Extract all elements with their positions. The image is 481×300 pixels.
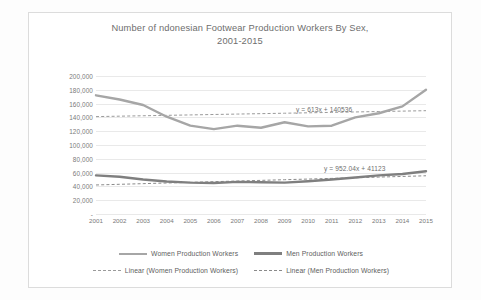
legend-label-linear-women: Linear (Women Production Workers): [125, 267, 238, 274]
x-axis-tick-label: 2010: [301, 217, 315, 224]
series-line-men: [96, 171, 426, 183]
x-axis-tick-label: 2008: [254, 217, 268, 224]
legend-label-linear-men: Linear (Men Production Workers): [286, 267, 389, 274]
x-axis-tick-label: 2002: [113, 217, 127, 224]
gridline: [96, 214, 426, 215]
y-axis-tick-label: 140,000: [69, 114, 93, 121]
y-axis-tick-label: 200,000: [69, 73, 93, 80]
y-axis-tick-label: 120,000: [69, 128, 93, 135]
series-layer: [96, 76, 426, 214]
x-axis-tick-label: 2001: [89, 217, 103, 224]
x-axis-tick-label: 2011: [325, 217, 338, 224]
x-axis-tick-label: 2014: [396, 217, 410, 224]
x-axis-tick-label: 2013: [372, 217, 386, 224]
x-axis-tick-label: 2005: [183, 217, 197, 224]
legend-swatch-linear-women-icon: [93, 270, 121, 271]
x-axis-tick-label: 2012: [348, 217, 362, 224]
trendline-equation-men: y = 952.04x + 41123: [324, 165, 386, 172]
plot-area: y = 613x + 140536 y = 952.04x + 41123: [96, 76, 426, 214]
x-axis-tick-label: 2004: [160, 217, 174, 224]
y-axis-tick-label: 100,000: [69, 142, 93, 149]
y-axis-tick-label: 160,000: [69, 100, 93, 107]
legend-item-men[interactable]: Men Production Workers: [254, 250, 363, 257]
chart-container: Number of ndonesian Footwear Production …: [28, 12, 452, 288]
legend-swatch-men-icon: [254, 252, 282, 255]
y-axis-labels: 200,000180,000160,000140,000120,000100,0…: [37, 69, 93, 221]
legend-swatch-women-icon: [119, 253, 147, 255]
x-axis-tick-label: 2009: [278, 217, 292, 224]
y-axis-tick-label: 20,000: [73, 197, 93, 204]
series-line-women: [96, 90, 426, 129]
legend-row-trendlines: Linear (Women Production Workers) Linear…: [43, 262, 439, 279]
trendline-equation-women: y = 613x + 140536: [296, 106, 352, 113]
chart-legend: Women Production Workers Men Production …: [43, 245, 439, 279]
y-axis-tick-label: 180,000: [69, 86, 93, 93]
x-axis-tick-label: 2015: [419, 217, 433, 224]
legend-label-men: Men Production Workers: [286, 250, 363, 257]
legend-swatch-linear-men-icon: [254, 270, 282, 271]
legend-item-women[interactable]: Women Production Workers: [119, 250, 238, 257]
x-axis-tick-label: 2006: [207, 217, 221, 224]
y-axis-tick-label: 80,000: [73, 155, 93, 162]
y-axis-tick-label: 40,000: [73, 183, 93, 190]
legend-label-women: Women Production Workers: [151, 250, 238, 257]
legend-item-linear-men[interactable]: Linear (Men Production Workers): [254, 267, 389, 274]
x-axis-tick-label: 2007: [231, 217, 245, 224]
x-axis-tick-label: 2003: [136, 217, 150, 224]
legend-row-series: Women Production Workers Men Production …: [43, 245, 439, 262]
y-axis-tick-label: 60,000: [73, 169, 93, 176]
page-background: Number of ndonesian Footwear Production …: [0, 0, 481, 300]
legend-item-linear-women[interactable]: Linear (Women Production Workers): [93, 267, 238, 274]
x-axis-labels: 2001200220032004200520062007200820092010…: [96, 217, 426, 231]
